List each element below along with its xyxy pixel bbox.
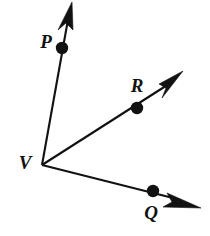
ray-vr-arrowhead (159, 71, 183, 98)
point-dot-p (56, 42, 68, 54)
point-label-p: P (39, 31, 52, 52)
ray-vq-arrowhead (163, 193, 201, 208)
ray-vr-line (42, 82, 172, 165)
angle-diagram-canvas: P R Q V (0, 0, 210, 236)
ray-vp-arrowhead (58, 2, 73, 30)
point-dot-q (147, 185, 159, 197)
angle-diagram: P R Q V (0, 0, 210, 236)
point-label-q: Q (144, 202, 158, 223)
point-label-r: R (130, 75, 144, 96)
vertex-label-v: V (19, 152, 33, 173)
point-dot-r (131, 102, 143, 114)
